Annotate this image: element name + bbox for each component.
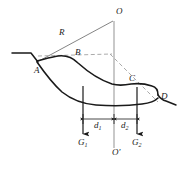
label-o-prime-text: O': [112, 147, 120, 157]
label-d2: d2: [121, 121, 129, 130]
ship-section-diagram: [0, 0, 180, 172]
label-d: D: [161, 92, 168, 101]
label-c: C: [129, 74, 135, 83]
label-g1-base: G: [78, 137, 85, 147]
label-d2-sub: 2: [126, 125, 129, 131]
label-g2-sub: 2: [139, 142, 142, 148]
label-o-prime: O': [112, 148, 120, 157]
label-g2-base: G: [132, 137, 139, 147]
label-d1-sub: 1: [99, 125, 102, 131]
label-radius: R: [59, 28, 65, 37]
figure-container: O O' A B C D R d1 d2 G1 G2: [0, 0, 180, 172]
label-o: O: [116, 7, 123, 16]
deck-line-left: [12, 53, 38, 62]
label-g2: G2: [132, 138, 142, 147]
label-b: B: [75, 48, 81, 57]
label-g1: G1: [78, 138, 88, 147]
hull-upper-outline: [37, 56, 158, 95]
label-d1-base: d: [94, 120, 99, 130]
label-d1: d1: [94, 121, 102, 130]
label-g1-sub: 1: [85, 142, 88, 148]
label-a: A: [34, 66, 40, 75]
label-d2-base: d: [121, 120, 126, 130]
